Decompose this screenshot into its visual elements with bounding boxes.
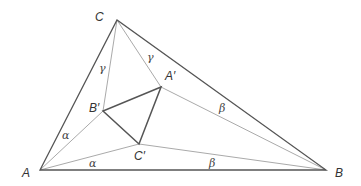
angle-label-beta-upper: β [218, 102, 225, 115]
trisector-b-to-cprime [139, 144, 326, 170]
vertex-label-c: C [95, 10, 104, 24]
vertex-label-b-prime: B′ [89, 101, 100, 115]
vertex-label-a: A [21, 166, 30, 180]
vertex-label-a-prime: A′ [164, 69, 176, 83]
inner-triangle-morley [103, 87, 161, 144]
morley-triangle-diagram: A B C A′ B′ C′ α α β β γ γ [0, 0, 361, 186]
vertex-label-c-prime: C′ [134, 149, 146, 163]
angle-label-alpha-lower: α [89, 157, 97, 170]
trisector-b-to-aprime [161, 87, 326, 170]
trisector-c-to-aprime [117, 20, 161, 87]
diagram-canvas: A B C A′ B′ C′ α α β β γ γ [0, 0, 361, 186]
angle-label-gamma-right: γ [147, 51, 154, 64]
angle-label-alpha-upper: α [62, 129, 70, 142]
vertex-label-b: B [335, 166, 343, 180]
angle-label-beta-lower: β [208, 157, 215, 170]
trisector-lines [40, 20, 326, 170]
outer-triangle-abc [40, 20, 326, 170]
angle-label-gamma-left: γ [99, 62, 106, 75]
